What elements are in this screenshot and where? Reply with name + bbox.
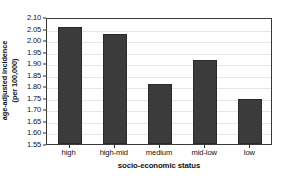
y-axis-tick-label: 1.75 xyxy=(27,95,41,103)
y-axis-tick-label: 1.70 xyxy=(27,106,41,114)
x-axis-tick-mark xyxy=(69,145,70,148)
bar xyxy=(148,84,172,144)
x-axis-tick-mark xyxy=(249,145,250,148)
y-axis-tick-labels: 2.102.052.001.951.901.851.801.751.701.65… xyxy=(18,12,44,151)
x-axis-title: socio-economic status xyxy=(46,161,272,170)
bar xyxy=(58,27,82,144)
plot-area xyxy=(46,18,272,145)
y-axis-tick-label: 2.00 xyxy=(27,37,41,45)
y-axis-tick-label: 1.80 xyxy=(27,83,41,91)
bar xyxy=(193,60,217,144)
x-axis-tick-mark xyxy=(204,145,205,148)
y-axis-tick-label: 1.90 xyxy=(27,60,41,68)
y-axis-tick-label: 1.65 xyxy=(27,118,41,126)
bar xyxy=(238,99,262,144)
bar xyxy=(103,34,127,144)
y-axis-tick-label: 1.60 xyxy=(27,129,41,137)
x-axis-tick-label: high-mid xyxy=(100,148,128,157)
y-axis-title: age-adjusted incidence (per 100,000) xyxy=(0,0,20,160)
bar-chart: age-adjusted incidence (per 100,000) 2.1… xyxy=(0,0,282,186)
x-axis-tick-label: mid-low xyxy=(191,148,216,157)
y-axis-title-line1: age-adjusted incidence xyxy=(1,40,11,120)
x-axis-tick-label: medium xyxy=(146,148,172,157)
x-axis-tick-labels: highhigh-midmediummid-lowlow xyxy=(46,146,272,160)
x-axis-tick-label: low xyxy=(244,148,255,157)
x-axis-tick-mark xyxy=(159,145,160,148)
y-axis-tick-label: 2.10 xyxy=(27,14,41,22)
x-axis-tick-mark xyxy=(114,145,115,148)
x-axis-tick-label: high xyxy=(62,148,76,157)
y-axis-tick-label: 1.55 xyxy=(27,141,41,149)
y-axis-tick-label: 1.85 xyxy=(27,72,41,80)
y-axis-tick-label: 1.95 xyxy=(27,49,41,57)
y-axis-tick-label: 2.05 xyxy=(27,26,41,34)
bars-layer xyxy=(47,19,271,144)
